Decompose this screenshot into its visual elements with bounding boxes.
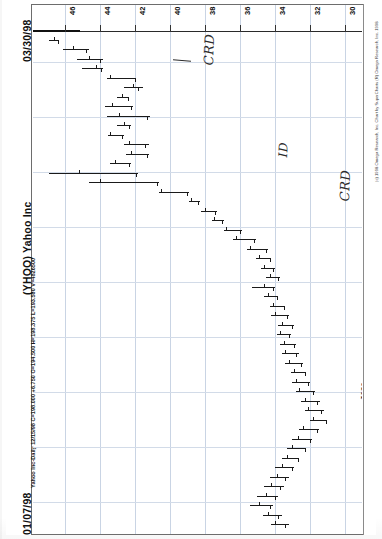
price-tick-mark [240, 25, 241, 32]
ohlc-close-tick [138, 88, 139, 91]
ohlc-open-tick [268, 293, 269, 296]
price-tick-label: 38 [208, 7, 217, 15]
ohlc-close-tick [310, 440, 311, 443]
ohlc-close-tick [284, 307, 285, 310]
price-axis-line [33, 31, 362, 32]
ohlc-open-tick [289, 360, 290, 363]
ohlc-close-tick [270, 506, 271, 509]
ohlc-close-tick [280, 487, 281, 490]
ohlc-bar [82, 68, 103, 69]
ohlc-close-tick [317, 430, 318, 433]
date-gridline [33, 227, 362, 228]
ohlc-close-tick [301, 364, 302, 367]
ohlc-bar [89, 182, 159, 183]
ohlc-open-tick [96, 65, 97, 68]
ohlc-open-tick [266, 493, 267, 496]
ohlc-close-tick [128, 98, 129, 101]
ohlc-close-tick [101, 69, 102, 72]
plot-area[interactable]: 464442403836343230 23169M239F2612 CRD ID… [33, 5, 362, 534]
ohlc-open-tick [305, 398, 306, 401]
ohlc-close-tick [147, 117, 148, 120]
ohlc-bar [247, 249, 268, 250]
date-gridline [33, 337, 362, 338]
ohlc-close-tick [317, 402, 318, 405]
ohlc-bar [287, 448, 306, 449]
ohlc-open-tick [292, 445, 293, 448]
ohlc-bar [252, 287, 275, 288]
price-tick-mark [135, 25, 136, 32]
ohlc-close-tick [277, 297, 278, 300]
ohlc-close-tick [298, 459, 299, 462]
ohlc-open-tick [298, 436, 299, 439]
date-gridline [33, 117, 362, 118]
annotation-crd-1: CRD [201, 33, 217, 65]
price-tick-label: 44 [103, 7, 112, 15]
price-tick-mark [170, 25, 171, 32]
ohlc-open-tick [273, 303, 274, 306]
price-gridline [345, 5, 346, 534]
ohlc-open-tick [122, 94, 123, 97]
ohlc-close-tick [135, 79, 136, 82]
price-tick-mark [65, 25, 66, 32]
ohlc-open-tick [259, 255, 260, 258]
ohlc-open-tick [115, 160, 116, 163]
ohlc-close-tick [305, 449, 306, 452]
ohlc-open-tick [259, 502, 260, 505]
ohlc-close-tick [100, 60, 101, 63]
ohlc-close-tick [222, 221, 223, 224]
ohlc-close-tick [308, 383, 309, 386]
ohlc-open-tick [270, 274, 271, 277]
ohlc-open-tick [119, 113, 120, 116]
price-axis-stub [33, 30, 80, 32]
ohlc-close-tick [136, 174, 137, 177]
ohlc-bar [159, 192, 189, 193]
ohlc-open-tick [161, 189, 162, 192]
ohlc-close-tick [157, 183, 158, 186]
ohlc-open-tick [73, 46, 74, 49]
ohlc-close-tick [58, 41, 59, 44]
price-tick-label: 32 [313, 7, 322, 15]
ohlc-open-tick [277, 474, 278, 477]
price-gridline [135, 5, 136, 534]
ohlc-close-tick [287, 316, 288, 319]
ohlc-close-tick [275, 497, 276, 500]
ohlc-close-tick [187, 193, 188, 196]
ohlc-bar [124, 87, 143, 88]
ohlc-bar [233, 239, 256, 240]
ohlc-open-tick [110, 75, 111, 78]
price-tick-label: 46 [68, 7, 77, 15]
price-tick-label: 36 [243, 7, 252, 15]
ohlc-close-tick [129, 126, 130, 129]
ohlc-open-tick [89, 56, 90, 59]
date-range-start-label: 01/07/98 [21, 493, 33, 535]
price-tick-mark [275, 25, 276, 32]
ohlc-open-tick [275, 521, 276, 524]
ohlc-bar [107, 116, 151, 117]
date-gridline [33, 62, 362, 63]
copyright-notice: (c) 1998 Omega Research, Inc. Chart by S… [374, 21, 379, 182]
date-gridline [33, 447, 362, 448]
annotation-crd-1-leader [173, 59, 191, 61]
ohlc-open-tick [275, 312, 276, 315]
ohlc-open-tick [100, 179, 101, 182]
ohlc-close-tick [326, 421, 327, 424]
price-tick-label: 30 [348, 7, 357, 15]
ohlc-close-tick [313, 392, 314, 395]
ohlc-close-tick [145, 145, 146, 148]
ohlc-open-tick [133, 84, 134, 87]
annotation-xx-1: XX [359, 382, 362, 400]
ohlc-open-tick [303, 426, 304, 429]
ohlc-close-tick [273, 269, 274, 272]
date-gridline [33, 282, 362, 283]
price-tick-mark [205, 25, 206, 32]
ohlc-open-tick [205, 208, 206, 211]
ohlc-close-tick [240, 231, 241, 234]
ohlc-open-tick [129, 141, 130, 144]
ohlc-open-tick [285, 350, 286, 353]
ohlc-open-tick [226, 227, 227, 230]
ohlc-open-tick [294, 369, 295, 372]
ohlc-close-tick [278, 278, 279, 281]
ohlc-open-tick [282, 322, 283, 325]
price-gridline [275, 5, 276, 534]
ohlc-open-tick [308, 407, 309, 410]
